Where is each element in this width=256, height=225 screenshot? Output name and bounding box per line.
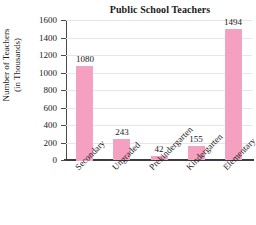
y-axis-tick bbox=[61, 160, 66, 161]
y-axis-tick-label: 1200 bbox=[17, 51, 57, 60]
y-axis-tick-label: 200 bbox=[17, 139, 57, 148]
y-axis-tick-label: 600 bbox=[17, 104, 57, 113]
bar-value-label: 243 bbox=[102, 128, 142, 137]
y-axis-tick bbox=[61, 143, 66, 144]
bar-value-label: 1494 bbox=[213, 18, 253, 27]
chart-figure: Public School Teachers Number of Teacher… bbox=[0, 0, 256, 225]
bar-value-label: 1080 bbox=[65, 55, 105, 64]
y-axis-tick bbox=[61, 108, 66, 109]
y-axis-tick-label: 1400 bbox=[17, 34, 57, 43]
bar bbox=[225, 29, 242, 160]
y-axis-tick-label: 1600 bbox=[17, 16, 57, 25]
y-axis-tick bbox=[61, 125, 66, 126]
y-axis-title-line-1: Number of Teachers bbox=[1, 0, 12, 130]
y-axis-tick bbox=[61, 73, 66, 74]
y-axis-tick-label: 800 bbox=[17, 86, 57, 95]
y-axis-tick bbox=[61, 90, 66, 91]
y-axis-tick bbox=[61, 38, 66, 39]
y-axis-tick-label: 400 bbox=[17, 121, 57, 130]
y-axis-tick bbox=[61, 20, 66, 21]
chart-title: Public School Teachers bbox=[66, 4, 254, 15]
y-axis-tick-label: 1000 bbox=[17, 69, 57, 78]
y-axis-tick-label: 0 bbox=[17, 156, 57, 165]
